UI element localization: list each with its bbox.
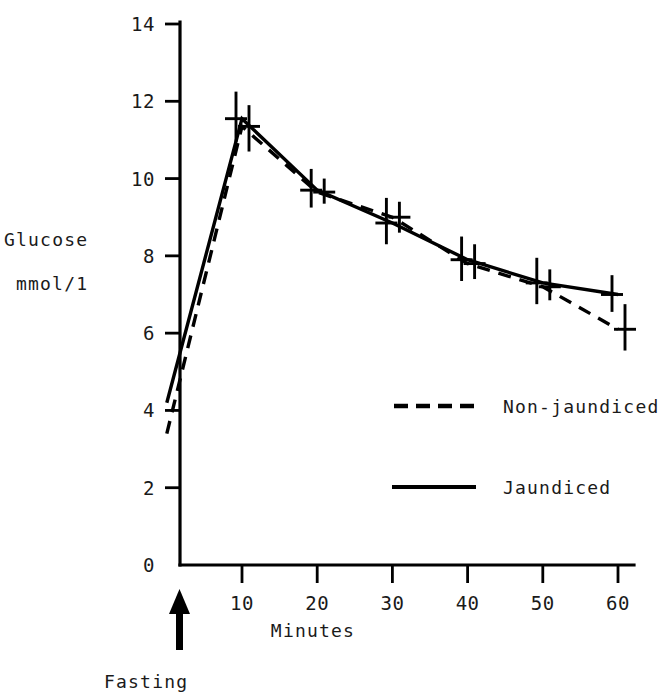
fasting-arrow-icon <box>169 589 190 650</box>
x-axis-title: Minutes <box>271 620 355 641</box>
y-tick-label-0: 0 <box>143 554 155 576</box>
y-tick-label-14: 14 <box>131 13 155 35</box>
x-tick-label-50: 50 <box>531 592 555 614</box>
series-line-jaundiced <box>167 119 618 403</box>
y-tick-label-6: 6 <box>143 322 155 344</box>
x-tick-label-10: 10 <box>230 592 254 614</box>
legend-label-jaundiced: Jaundiced <box>503 477 611 498</box>
x-tick-label-20: 20 <box>305 592 329 614</box>
y-tick-label-2: 2 <box>143 477 155 499</box>
chart-canvas: 02468101214 102030405060 Glucose mmol/1 … <box>0 0 658 698</box>
legend-label-non-jaundiced: Non-jaundiced <box>503 396 658 417</box>
errorbars-jaundiced <box>225 92 623 312</box>
y-tick-label-8: 8 <box>143 245 155 267</box>
legend: Non-jaundiced Jaundiced <box>392 396 658 498</box>
errorbars-non-jaundiced <box>238 105 636 350</box>
y-axis-title-line2: mmol/1 <box>16 273 88 294</box>
y-tick-label-12: 12 <box>131 90 155 112</box>
x-tick-label-60: 60 <box>606 592 630 614</box>
y-axis-tick-labels: 02468101214 <box>131 13 155 576</box>
y-axis-ticks <box>165 24 180 488</box>
y-tick-label-10: 10 <box>131 168 155 190</box>
x-tick-label-30: 30 <box>380 592 404 614</box>
x-tick-label-40: 40 <box>456 592 480 614</box>
glucose-tolerance-chart-figure: 02468101214 102030405060 Glucose mmol/1 … <box>0 0 658 698</box>
x-axis-ticks <box>242 565 618 583</box>
fasting-label: Fasting <box>104 671 188 692</box>
x-axis-tick-labels: 102030405060 <box>230 592 630 614</box>
y-axis-title-line1: Glucose <box>4 229 88 250</box>
y-tick-label-4: 4 <box>143 399 155 421</box>
